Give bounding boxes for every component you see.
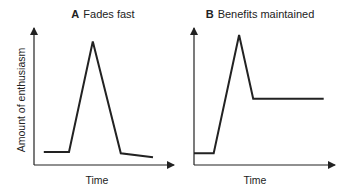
chart-b-line — [194, 35, 324, 153]
chart-b: BBenefits maintained Time — [194, 8, 335, 186]
chart-b-title: BBenefits maintained — [206, 8, 315, 20]
chart-a-line — [44, 42, 153, 158]
chart-a: AFades fast Time Amount of enthusiasm — [15, 8, 174, 186]
chart-a-ylabel: Amount of enthusiasm — [15, 48, 27, 153]
chart-b-xlabel: Time — [244, 174, 267, 186]
chart-a-title: AFades fast — [71, 8, 134, 20]
enthusiasm-charts: AFades fast Time Amount of enthusiasm BB… — [0, 0, 347, 195]
chart-a-xlabel: Time — [86, 174, 109, 186]
